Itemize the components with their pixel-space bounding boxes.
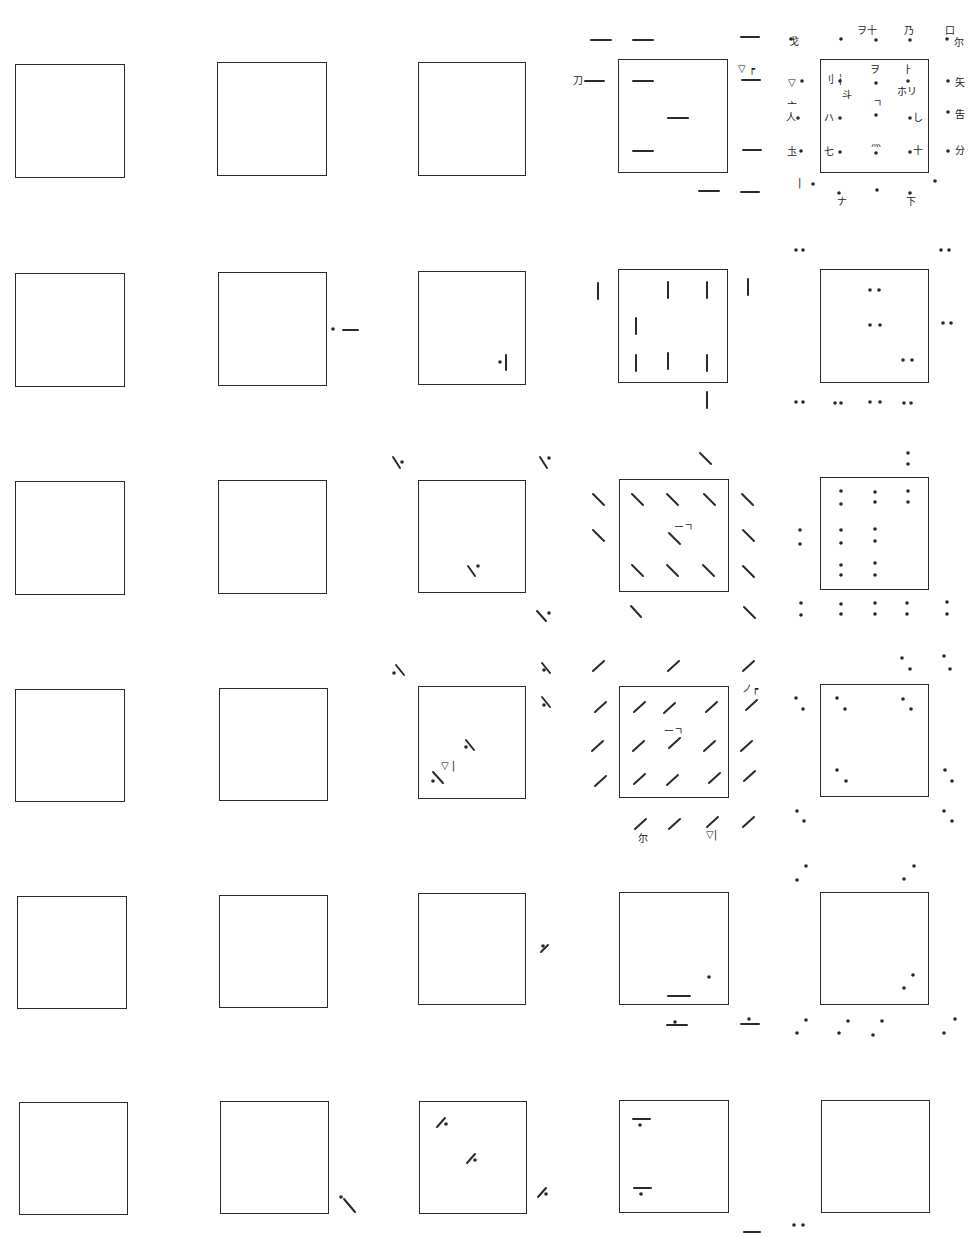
glyph-label: 圡 [787, 147, 797, 157]
dot-mark [946, 79, 950, 83]
glyph-label: ▽ ┍ [738, 64, 755, 74]
dot-mark [794, 400, 798, 404]
glyph-label: ▽ [788, 78, 796, 88]
slash-mark [743, 817, 754, 827]
dot-mark [794, 696, 798, 700]
grid-square-r1c1 [15, 64, 125, 178]
backslash-mark [744, 607, 755, 618]
dot-mark [541, 944, 545, 948]
dot-mark [801, 1223, 805, 1227]
backslash-mark [631, 606, 641, 617]
mark-layer [0, 0, 977, 1237]
dot-mark [908, 38, 912, 42]
dot-mark [795, 809, 799, 813]
dot-mark [953, 1017, 957, 1021]
glyph-label: 十 [913, 146, 923, 156]
grid-square-r4c4 [619, 686, 729, 798]
dot-mark [946, 149, 950, 153]
dot-mark [547, 456, 551, 460]
dot-mark [798, 542, 802, 546]
dot-mark [875, 188, 879, 192]
dot-mark [400, 460, 404, 464]
dot-mark [908, 667, 912, 671]
glyph-label: ーㄱ [664, 727, 683, 737]
glyph-label: 分 [955, 146, 965, 156]
slash-mark [741, 741, 752, 751]
dot-mark [949, 321, 953, 325]
dot-mark [939, 248, 943, 252]
grid-square-r2c4 [618, 269, 728, 383]
slash-mark [669, 819, 680, 829]
dot-mark [912, 864, 916, 868]
grid-square-r6c5 [821, 1100, 930, 1213]
glyph-label: ナ [837, 197, 847, 207]
dot-mark [906, 462, 910, 466]
dot-mark [942, 1031, 946, 1035]
glyph-label: 下 [906, 197, 916, 207]
dot-mark [547, 611, 551, 615]
glyph-label: ㅏ [903, 65, 912, 75]
dot-mark [948, 667, 952, 671]
dot-mark [544, 1192, 548, 1196]
slash-mark [538, 1188, 546, 1197]
backslash-mark [743, 566, 754, 577]
dot-mark [880, 1019, 884, 1023]
dot-mark [902, 401, 906, 405]
glyph-label: ▽ | [441, 761, 455, 771]
glyph-label: 刂 ┆ [824, 75, 843, 85]
dot-mark [933, 179, 937, 183]
backslash-mark [537, 611, 546, 621]
dot-mark [795, 1031, 799, 1035]
glyph-label: 戈 [789, 37, 799, 47]
backslash-mark [344, 1199, 355, 1212]
grid-square-r2c1 [15, 273, 125, 387]
slash-mark [668, 661, 679, 671]
dot-mark [811, 182, 815, 186]
grid-square-r6c2 [220, 1101, 329, 1214]
backslash-mark [593, 494, 604, 505]
glyph-label: ーㄱ [674, 523, 693, 533]
backslash-mark [700, 453, 711, 464]
dot-mark [905, 612, 909, 616]
grid-square-r5c3 [418, 893, 526, 1005]
grid-square-r3c4 [619, 479, 729, 592]
dot-mark [796, 116, 800, 120]
dot-mark [943, 768, 947, 772]
glyph-label: 刀 [573, 76, 583, 86]
grid-square-r3c3 [418, 480, 526, 593]
grid-square-r5c4 [619, 892, 729, 1005]
glyph-label: 尔 [954, 38, 964, 48]
dot-mark [868, 400, 872, 404]
glyph-label: 斗 [842, 90, 852, 100]
dot-mark [802, 819, 806, 823]
dot-mark [878, 400, 882, 404]
glyph-label: ▽| [706, 830, 717, 840]
dot-mark [950, 819, 954, 823]
dot-mark [804, 1018, 808, 1022]
diagram-canvas: 戈ヲ十乃口尔刀▽ ┍▽刂 ┆ヲㅏ斗ホリ矢ㄱ亠人ハし吿灬圡七十分|ナ下ーㄱノ┍ーㄱ… [0, 0, 977, 1237]
dot-mark [339, 1195, 343, 1199]
dot-mark [799, 613, 803, 617]
grid-square-r4c2 [219, 688, 328, 801]
grid-square-r4c3 [418, 686, 526, 799]
dot-mark [542, 668, 546, 672]
dot-mark [799, 601, 803, 605]
grid-square-r5c5 [820, 892, 929, 1005]
dot-mark [392, 671, 396, 675]
grid-square-r2c3 [418, 271, 526, 385]
glyph-label: ノ┍ [742, 684, 758, 694]
dot-mark [747, 1017, 751, 1021]
grid-square-r1c3 [418, 62, 526, 176]
dot-mark [873, 612, 877, 616]
backslash-mark [542, 663, 550, 673]
dot-mark [833, 401, 837, 405]
dot-mark [794, 248, 798, 252]
grid-square-r6c4 [619, 1100, 729, 1213]
grid-square-r4c5 [820, 684, 929, 797]
dot-mark [792, 1223, 796, 1227]
dot-mark [942, 654, 946, 658]
grid-square-r6c3 [419, 1101, 527, 1214]
grid-square-r3c1 [15, 481, 125, 595]
grid-square-r2c2 [218, 272, 327, 386]
glyph-label: 人 [786, 113, 796, 123]
